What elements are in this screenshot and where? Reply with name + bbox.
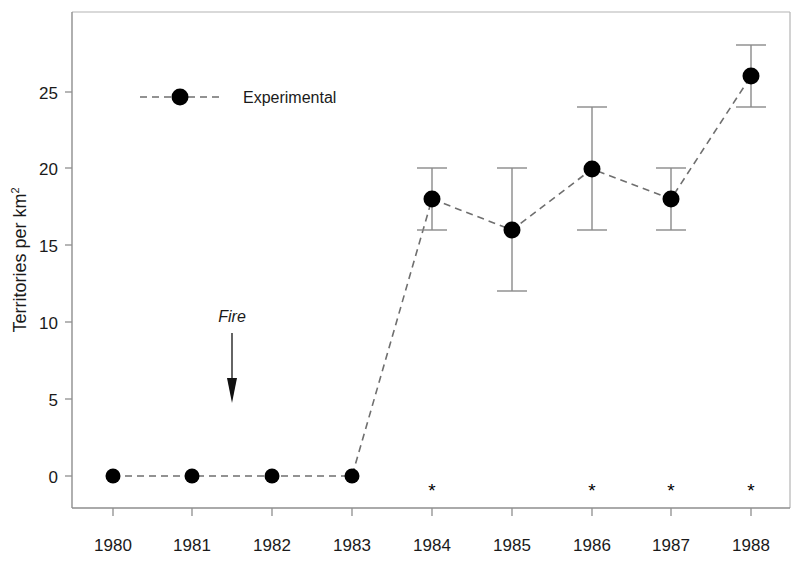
significance-star-1984: * xyxy=(428,480,436,501)
y-tick-label-25: 25 xyxy=(39,84,58,103)
significance-star-1987: * xyxy=(667,480,675,501)
data-point-1983[interactable] xyxy=(345,469,360,484)
plot-frame xyxy=(72,12,790,508)
data-point-1985[interactable] xyxy=(504,222,521,239)
legend-marker-experimental xyxy=(172,89,189,106)
y-axis-title-base: Territories per km xyxy=(10,194,30,333)
fire-annotation: Fire xyxy=(218,308,246,403)
chart-legend: Experimental xyxy=(140,89,336,107)
data-point-1986[interactable] xyxy=(584,161,601,178)
data-point-1981[interactable] xyxy=(185,469,200,484)
y-tick-label-15: 15 xyxy=(39,237,58,256)
x-tick-label-1988: 1988 xyxy=(732,536,770,555)
y-tick-label-5: 5 xyxy=(49,391,58,410)
chart-figure: 25 20 15 10 5 0 Territories per km2 198 xyxy=(0,0,804,571)
x-tick-label-1985: 1985 xyxy=(493,536,531,555)
y-tick-label-0: 0 xyxy=(49,468,58,487)
x-tick-label-1981: 1981 xyxy=(173,536,211,555)
x-tick-label-1980: 1980 xyxy=(94,536,132,555)
y-axis-title-exponent: 2 xyxy=(9,187,21,193)
data-point-1982[interactable] xyxy=(265,469,280,484)
series-line-experimental xyxy=(113,76,751,476)
x-tick-label-1982: 1982 xyxy=(253,536,291,555)
y-tick-label-20: 20 xyxy=(39,160,58,179)
significance-markers: * * * * xyxy=(428,480,755,501)
legend-label-experimental: Experimental xyxy=(243,89,336,106)
data-point-1988[interactable] xyxy=(743,68,760,85)
y-axis-title: Territories per km2 xyxy=(9,187,30,332)
data-point-1980[interactable] xyxy=(106,469,121,484)
fire-arrow-head xyxy=(227,378,237,403)
x-axis: 1980 1981 1982 1983 1984 1985 1986 1987 … xyxy=(72,508,790,555)
x-tick-label-1984: 1984 xyxy=(413,536,451,555)
x-tick-label-1987: 1987 xyxy=(652,536,690,555)
x-tick-label-1983: 1983 xyxy=(333,536,371,555)
y-axis: 25 20 15 10 5 0 xyxy=(39,12,72,508)
significance-star-1988: * xyxy=(747,480,755,501)
fire-annotation-label: Fire xyxy=(218,308,246,325)
data-point-1984[interactable] xyxy=(424,191,441,208)
data-point-1987[interactable] xyxy=(663,191,680,208)
significance-star-1986: * xyxy=(588,480,596,501)
x-tick-label-1986: 1986 xyxy=(573,536,611,555)
series-experimental xyxy=(106,45,767,484)
y-tick-label-10: 10 xyxy=(39,314,58,333)
data-points xyxy=(106,68,760,484)
svg-text:Territories per km2: Territories per km2 xyxy=(9,187,30,332)
chart-canvas: 25 20 15 10 5 0 Territories per km2 198 xyxy=(0,0,804,571)
